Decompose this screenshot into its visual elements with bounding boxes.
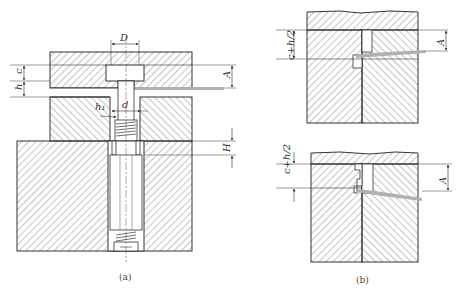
svg-text:A: A — [437, 177, 448, 185]
dim-A: A — [192, 65, 236, 88]
engineering-drawing: D c h h₁ d A — [0, 0, 462, 296]
svg-text:H: H — [221, 143, 232, 153]
svg-text:c: c — [13, 68, 24, 74]
caption-b: (b) — [356, 275, 369, 285]
svg-text:h₁: h₁ — [95, 101, 105, 112]
figure-b-bottom: c+h/2 A — [276, 144, 452, 262]
strip-material — [134, 87, 224, 90]
svg-text:c+h/2: c+h/2 — [285, 30, 296, 60]
svg-text:A: A — [221, 71, 232, 79]
svg-text:D: D — [119, 32, 128, 43]
svg-text:d: d — [122, 99, 128, 110]
bottom-block — [17, 141, 192, 251]
svg-text:A: A — [435, 39, 446, 47]
caption-a: (a) — [119, 272, 131, 282]
figure-b-top: c+h/2 A — [276, 11, 448, 123]
figure-a: D c h h₁ d A — [10, 32, 236, 282]
dim-c-h: c h — [10, 65, 50, 97]
svg-text:c+h/2: c+h/2 — [281, 144, 292, 174]
svg-text:h: h — [13, 84, 24, 90]
